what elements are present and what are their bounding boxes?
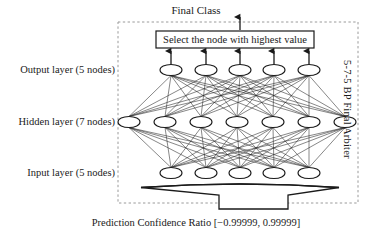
node-hidden-5 bbox=[262, 117, 284, 128]
node-input-1 bbox=[160, 168, 182, 179]
edges-hidden-to-output bbox=[129, 76, 345, 117]
node-output-3 bbox=[229, 65, 251, 76]
selector-box-label: Select the node with highest value bbox=[157, 35, 313, 46]
final-class-label: Final Class bbox=[0, 5, 392, 16]
module-side-label: 5-7-5 BP Final Arbiter bbox=[342, 60, 353, 159]
node-hidden-2 bbox=[154, 117, 176, 128]
output-to-selector-arrows bbox=[171, 51, 309, 65]
hidden-layer-nodes bbox=[118, 117, 356, 128]
node-hidden-3 bbox=[190, 117, 212, 128]
node-input-5 bbox=[298, 168, 320, 179]
hidden-layer-label: Hidden layer (7 nodes) bbox=[18, 117, 115, 128]
node-input-3 bbox=[229, 168, 251, 179]
input-layer-nodes bbox=[160, 168, 320, 179]
node-input-4 bbox=[263, 168, 285, 179]
node-output-5 bbox=[298, 65, 320, 76]
node-hidden-1 bbox=[118, 117, 140, 128]
input-funnel bbox=[141, 184, 339, 209]
node-hidden-6 bbox=[298, 117, 320, 128]
prediction-confidence-caption: Prediction Confidence Ratio [−0.99999, 0… bbox=[0, 218, 392, 229]
output-layer-label: Output layer (5 nodes) bbox=[20, 65, 115, 76]
output-layer-nodes bbox=[160, 65, 320, 76]
input-layer-label: Input layer (5 nodes) bbox=[27, 168, 115, 179]
node-output-2 bbox=[195, 65, 217, 76]
node-hidden-4 bbox=[226, 117, 248, 128]
node-input-2 bbox=[195, 168, 217, 179]
node-output-4 bbox=[263, 65, 285, 76]
node-output-1 bbox=[160, 65, 182, 76]
edges-input-to-hidden bbox=[129, 128, 345, 168]
diagram-canvas: Final Class Select the node with highest… bbox=[0, 0, 392, 234]
